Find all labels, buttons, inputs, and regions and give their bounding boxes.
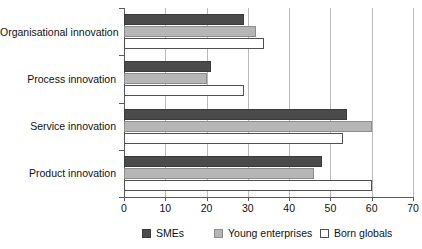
bar-2-2 [124, 133, 343, 144]
x-tick-label-60: 60 [366, 202, 378, 214]
x-tick-mark-30 [248, 197, 249, 201]
x-tick-label-30: 30 [242, 202, 254, 214]
x-tick-labels: 010203040506070 [124, 202, 413, 216]
category-axis-line [124, 197, 414, 198]
legend-item-0[interactable]: SMEs [142, 227, 184, 239]
chart-legend: SMEsYoung enterprisesBorn globals [124, 227, 414, 245]
plot-area [124, 8, 413, 197]
category-label-0: Organisational innovation [0, 26, 116, 38]
gridline-70 [413, 8, 414, 197]
x-tick-label-10: 10 [159, 202, 171, 214]
x-tick-label-50: 50 [325, 202, 337, 214]
bar-1-1 [124, 73, 207, 84]
legend-label-1: Young enterprises [228, 227, 312, 239]
legend-swatch-icon-2 [320, 229, 329, 238]
x-tick-mark-40 [289, 197, 290, 201]
bar-chart: Organisational innovationProcess innovat… [0, 0, 422, 249]
legend-label-2: Born globals [334, 227, 392, 239]
bar-3-1 [124, 168, 314, 179]
legend-swatch-icon-1 [214, 229, 223, 238]
legend-item-2[interactable]: Born globals [320, 227, 392, 239]
x-tick-label-0: 0 [121, 202, 127, 214]
bar-0-0 [124, 14, 244, 25]
category-label-3: Product innovation [0, 167, 116, 179]
bar-2-0 [124, 109, 347, 120]
bar-3-0 [124, 156, 322, 167]
legend-item-1[interactable]: Young enterprises [214, 227, 312, 239]
x-tick-label-20: 20 [201, 202, 213, 214]
bar-3-2 [124, 180, 372, 191]
category-axis: Organisational innovationProcess innovat… [0, 8, 120, 197]
x-tick-mark-10 [165, 197, 166, 201]
bar-2-1 [124, 121, 372, 132]
x-tick-label-70: 70 [407, 202, 419, 214]
x-tick-mark-70 [413, 197, 414, 201]
y-tick-mark-1 [119, 55, 124, 56]
bar-0-2 [124, 38, 264, 49]
x-tick-mark-20 [207, 197, 208, 201]
category-label-2: Service innovation [0, 120, 116, 132]
y-tick-mark-2 [119, 103, 124, 104]
y-tick-mark-3 [119, 150, 124, 151]
x-tick-mark-50 [330, 197, 331, 201]
bar-1-0 [124, 61, 211, 72]
legend-swatch-icon-0 [142, 229, 151, 238]
gridline-60 [372, 8, 373, 197]
gridline-50 [330, 8, 331, 197]
category-label-1: Process innovation [0, 73, 116, 85]
x-tick-mark-0 [124, 197, 125, 201]
legend-label-0: SMEs [156, 227, 184, 239]
y-axis-end-tick-0 [119, 8, 124, 9]
bar-1-2 [124, 85, 244, 96]
x-tick-label-40: 40 [283, 202, 295, 214]
x-tick-mark-60 [372, 197, 373, 201]
bar-0-1 [124, 26, 256, 37]
